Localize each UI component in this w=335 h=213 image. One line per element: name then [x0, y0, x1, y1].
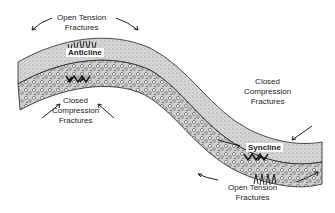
- syncline-closed-compression-label: Closed Compression Fractures: [244, 77, 291, 107]
- anticline-label: Anticline: [66, 48, 104, 57]
- anticline-closed-compression-label: Closed Compression Fractures: [52, 96, 99, 126]
- syncline-label: Syncline: [246, 143, 283, 152]
- syncline-open-tension-label: Open Tension Fractures: [228, 183, 277, 203]
- anticline-open-tension-label: Open Tension Fractures: [57, 13, 106, 33]
- fold-diagram: Open Tension Fractures Anticline Closed …: [0, 0, 335, 213]
